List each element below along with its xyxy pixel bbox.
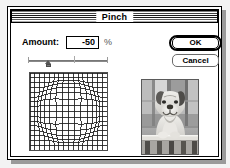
slider-thumb[interactable] <box>45 60 52 67</box>
image-preview[interactable] <box>141 79 199 155</box>
bulldog-photo <box>142 80 198 154</box>
pinch-mesh-grid <box>30 73 107 150</box>
cancel-button[interactable]: Cancel <box>172 54 219 67</box>
pinch-mesh-preview[interactable] <box>29 72 108 151</box>
amount-input[interactable] <box>66 36 99 49</box>
window-title: Pinch <box>96 11 134 22</box>
amount-slider[interactable] <box>28 56 108 68</box>
slider-tick-mid <box>74 56 75 63</box>
slider-tick-min <box>28 57 29 63</box>
slider-track[interactable] <box>28 60 108 62</box>
percent-symbol: % <box>104 37 112 47</box>
slider-thumb-base <box>46 64 51 67</box>
dialog-root: Pinch Amount: % OK Cancel <box>0 0 230 168</box>
window-titlebar[interactable]: Pinch <box>11 10 218 23</box>
slider-tick-max <box>107 57 108 63</box>
amount-label: Amount: <box>22 37 59 47</box>
amount-row: Amount: % <box>22 35 112 49</box>
ok-button[interactable]: OK <box>172 37 219 49</box>
pinch-dialog-window: Pinch Amount: % OK Cancel <box>7 6 222 160</box>
